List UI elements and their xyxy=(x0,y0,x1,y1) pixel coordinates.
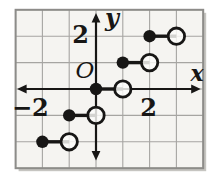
open-endpoint xyxy=(61,134,77,150)
x-tick-label: 2 xyxy=(140,93,157,122)
open-endpoint xyxy=(115,81,131,97)
closed-endpoint xyxy=(63,109,75,121)
y-tick-label: 2 xyxy=(72,20,89,49)
closed-endpoint xyxy=(143,30,155,42)
closed-endpoint xyxy=(90,83,102,95)
closed-endpoint xyxy=(36,136,48,148)
x-axis-label: x xyxy=(189,60,204,86)
origin-label: O xyxy=(76,57,95,83)
open-endpoint xyxy=(141,54,157,70)
y-axis-label: y xyxy=(104,3,121,32)
x-tick-label: −2 xyxy=(12,93,49,122)
coordinate-grid-graph: xyO−222 xyxy=(0,0,221,182)
open-endpoint xyxy=(168,28,184,44)
step-function-figure: xyO−222 xyxy=(0,0,221,182)
closed-endpoint xyxy=(117,56,129,68)
open-endpoint xyxy=(88,107,104,123)
